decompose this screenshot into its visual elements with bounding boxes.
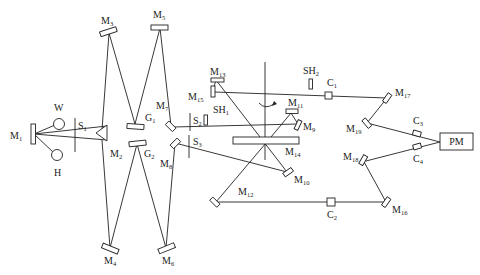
label-m17: M17 — [395, 87, 411, 99]
cell-c2 — [327, 198, 335, 206]
label-m8: M8 — [160, 158, 172, 170]
cell-c4 — [413, 143, 422, 150]
grating-g1 — [127, 123, 144, 129]
label-m6: M6 — [162, 255, 175, 267]
label-h: H — [54, 167, 61, 178]
mirror-m13 — [211, 78, 224, 82]
label-m15: M15 — [188, 91, 203, 103]
label-m5: M5 — [153, 9, 165, 21]
label-s1: S1 — [78, 120, 87, 132]
lamp-w — [54, 119, 65, 130]
mirror-m11 — [286, 109, 298, 114]
label-m12: M12 — [238, 186, 253, 198]
label-m3: M3 — [101, 15, 113, 27]
cell-c3 — [412, 130, 421, 137]
label-m7: M7 — [156, 100, 169, 112]
beam-m1-m2-lower — [34, 134, 107, 140]
cell-c1 — [325, 92, 332, 99]
optical-diagram: PM M1 W H S1 M2 M3 M5 M4 M6 G1 G2 M7 M8 … — [0, 0, 480, 275]
label-sh1: SH1 — [213, 104, 229, 116]
mirror-m4 — [101, 243, 119, 254]
label-pm: PM — [449, 136, 464, 147]
label-m16: M16 — [392, 204, 408, 216]
label-s3: S3 — [193, 136, 202, 148]
mirror-m9 — [294, 120, 302, 131]
lamp-h — [52, 150, 63, 161]
mirror-m18 — [359, 155, 368, 166]
mirror-m15 — [211, 86, 215, 97]
mirror-m3 — [100, 27, 118, 37]
shutter-sh1 — [204, 115, 208, 125]
label-m4: M4 — [104, 255, 117, 267]
beam-m15-m17 — [214, 92, 387, 98]
beam-m3-g1 — [109, 33, 135, 124]
label-m1: M1 — [10, 130, 22, 142]
label-sh2: SH2 — [303, 65, 319, 77]
label-m18: M18 — [343, 151, 358, 163]
label-g2: G2 — [144, 148, 154, 160]
mirror-m8 — [170, 138, 181, 149]
beam-m8-m10 — [175, 143, 287, 172]
label-m10: M10 — [294, 174, 309, 186]
beam-m16-m18 — [363, 160, 386, 202]
label-s2: S2 — [193, 115, 202, 127]
label-c3: C3 — [413, 115, 423, 127]
label-m13: M13 — [210, 66, 225, 78]
label-m9: M9 — [303, 121, 315, 133]
beam-m19-pm — [367, 123, 440, 142]
label-m19: M19 — [346, 123, 361, 135]
mirror-m7 — [165, 121, 176, 132]
label-g1: G1 — [145, 112, 155, 124]
beam-h-m1 — [34, 134, 54, 153]
labels: M1 W H S1 M2 M3 M5 M4 M6 G1 G2 M7 M8 S2 … — [10, 9, 424, 267]
rotation-arrowhead-icon — [272, 101, 277, 106]
beam-m4-g2 — [110, 144, 137, 248]
label-m2: M2 — [110, 148, 122, 160]
label-c4: C4 — [413, 153, 424, 165]
rotation-arrow-icon — [259, 103, 274, 107]
label-w: W — [54, 102, 64, 113]
mirror-m14 — [233, 137, 299, 144]
label-c1: C1 — [327, 77, 337, 89]
label-m14: M14 — [285, 146, 301, 158]
label-m11: M11 — [288, 97, 303, 109]
beam-m2-m3 — [102, 33, 109, 130]
beam-m18-pm — [366, 142, 440, 161]
slits — [75, 113, 190, 158]
beam-m2-m4 — [102, 140, 110, 248]
label-c2: C2 — [327, 209, 337, 221]
grating-g2 — [129, 140, 146, 147]
mirrors — [31, 25, 392, 254]
shutter-sh2 — [309, 79, 313, 89]
mirror-m1 — [31, 124, 36, 144]
mirror-m5 — [151, 25, 168, 30]
